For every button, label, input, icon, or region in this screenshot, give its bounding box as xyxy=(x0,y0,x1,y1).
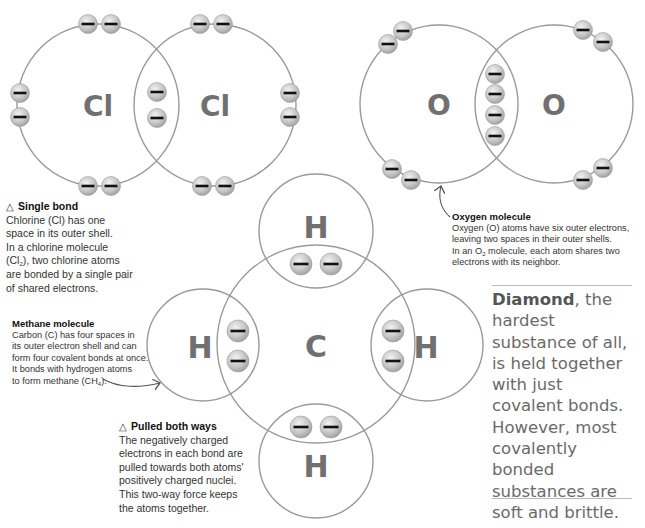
oxygen-symbol: O xyxy=(542,89,566,122)
hydrogen-symbol: H xyxy=(303,210,328,245)
electron-icon xyxy=(102,15,121,34)
diamond-fact-box: Diamond, the hardest substance of all, i… xyxy=(492,285,632,499)
electron-icon xyxy=(11,84,30,103)
electron-icon xyxy=(574,171,593,190)
triangle-icon: △ xyxy=(6,201,14,212)
oxygen-symbol: O xyxy=(427,89,451,122)
electron-icon xyxy=(382,320,404,342)
electron-icon xyxy=(383,160,402,179)
electron-icon xyxy=(379,35,398,54)
hydrogen-symbol: H xyxy=(187,330,212,365)
electron-icon xyxy=(191,15,210,34)
chlorine-molecule: ClCl xyxy=(11,15,300,196)
electron-icon xyxy=(11,108,30,127)
electron-icon xyxy=(382,350,404,372)
methane-caption-title: Methane molecule xyxy=(12,318,162,330)
electron-icon xyxy=(193,177,212,196)
electron-icon xyxy=(216,177,235,196)
electron-icon xyxy=(402,171,421,190)
electron-icon xyxy=(214,15,233,34)
electron-icon xyxy=(574,21,593,40)
electron-icon xyxy=(148,83,167,102)
electron-icon xyxy=(79,177,98,196)
electron-icon xyxy=(486,106,505,125)
chlorine-symbol: Cl xyxy=(200,90,230,123)
electron-icon xyxy=(148,109,167,128)
electron-icon xyxy=(594,33,613,52)
diamond-keyword: Diamond xyxy=(492,290,575,309)
electron-icon xyxy=(486,127,505,146)
pulled-both-ways-title: △Pulled both ways xyxy=(119,420,279,434)
electron-icon xyxy=(320,416,342,438)
methane-caption: Methane molecule Carbon (C) has four spa… xyxy=(12,318,162,388)
oxygen-caption: Oxygen molecule Oxygen (O) atoms have si… xyxy=(452,211,642,269)
oxygen-caption-arrow xyxy=(440,186,450,217)
electron-icon xyxy=(394,22,413,41)
hydrogen-symbol: H xyxy=(303,449,328,484)
electron-icon xyxy=(281,84,300,103)
electron-icon xyxy=(594,159,613,178)
electron-icon xyxy=(486,85,505,104)
electron-icon xyxy=(290,253,312,275)
electron-icon xyxy=(227,350,249,372)
single-bond-title: △Single bond xyxy=(6,200,186,214)
electron-icon xyxy=(227,320,249,342)
electron-icon xyxy=(486,65,505,84)
electron-icon xyxy=(102,177,121,196)
electron-icon xyxy=(281,108,300,127)
diamond-text: , the hardest substance of all, is held … xyxy=(492,290,627,522)
electron-icon xyxy=(290,416,312,438)
electron-icon xyxy=(320,253,342,275)
chlorine-symbol: Cl xyxy=(83,90,113,123)
pulled-both-ways-caption: △Pulled both ways The negatively charged… xyxy=(119,420,279,515)
hydrogen-symbol: H xyxy=(413,330,438,365)
carbon-symbol: C xyxy=(305,329,327,364)
electron-icon xyxy=(79,15,98,34)
oxygen-caption-title: Oxygen molecule xyxy=(452,211,642,223)
triangle-icon: △ xyxy=(119,421,127,432)
oxygen-molecule: OO xyxy=(360,21,633,190)
single-bond-caption: △Single bond Chlorine (Cl) has one space… xyxy=(6,200,186,295)
